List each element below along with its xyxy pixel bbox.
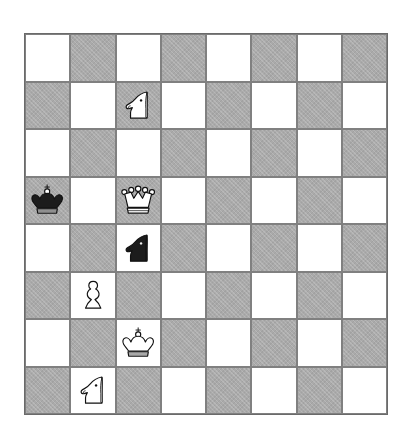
square-a5[interactable] — [25, 177, 70, 225]
white-pawn[interactable] — [75, 276, 111, 314]
square-e1[interactable] — [206, 367, 251, 415]
square-f1[interactable] — [251, 367, 296, 415]
square-c5[interactable] — [116, 177, 161, 225]
square-e5[interactable] — [206, 177, 251, 225]
square-a8[interactable] — [25, 34, 70, 82]
square-g2[interactable] — [297, 319, 342, 367]
white-king[interactable] — [120, 324, 156, 362]
square-c7[interactable] — [116, 82, 161, 130]
square-d5[interactable] — [161, 177, 206, 225]
square-e3[interactable] — [206, 272, 251, 320]
square-d7[interactable] — [161, 82, 206, 130]
square-b3[interactable] — [70, 272, 115, 320]
square-b4[interactable] — [70, 224, 115, 272]
square-c8[interactable] — [116, 34, 161, 82]
square-h7[interactable] — [342, 82, 387, 130]
square-a1[interactable] — [25, 367, 70, 415]
square-g7[interactable] — [297, 82, 342, 130]
square-h6[interactable] — [342, 129, 387, 177]
square-e7[interactable] — [206, 82, 251, 130]
square-h3[interactable] — [342, 272, 387, 320]
square-h4[interactable] — [342, 224, 387, 272]
square-d3[interactable] — [161, 272, 206, 320]
square-g8[interactable] — [297, 34, 342, 82]
square-g1[interactable] — [297, 367, 342, 415]
square-c6[interactable] — [116, 129, 161, 177]
square-c2[interactable] — [116, 319, 161, 367]
square-b6[interactable] — [70, 129, 115, 177]
square-b5[interactable] — [70, 177, 115, 225]
square-e4[interactable] — [206, 224, 251, 272]
chess-diagram — [0, 0, 414, 440]
square-f8[interactable] — [251, 34, 296, 82]
white-knight[interactable] — [75, 371, 111, 409]
square-c1[interactable] — [116, 367, 161, 415]
square-a4[interactable] — [25, 224, 70, 272]
white-knight[interactable] — [120, 86, 156, 124]
black-king[interactable] — [29, 181, 65, 219]
square-a3[interactable] — [25, 272, 70, 320]
square-c3[interactable] — [116, 272, 161, 320]
square-f7[interactable] — [251, 82, 296, 130]
square-h8[interactable] — [342, 34, 387, 82]
square-g6[interactable] — [297, 129, 342, 177]
square-h1[interactable] — [342, 367, 387, 415]
square-c4[interactable] — [116, 224, 161, 272]
square-d4[interactable] — [161, 224, 206, 272]
square-d6[interactable] — [161, 129, 206, 177]
chessboard[interactable] — [24, 33, 388, 415]
square-f4[interactable] — [251, 224, 296, 272]
square-g4[interactable] — [297, 224, 342, 272]
square-h5[interactable] — [342, 177, 387, 225]
white-queen[interactable] — [120, 181, 156, 219]
square-b8[interactable] — [70, 34, 115, 82]
square-a2[interactable] — [25, 319, 70, 367]
square-e2[interactable] — [206, 319, 251, 367]
square-b7[interactable] — [70, 82, 115, 130]
square-e6[interactable] — [206, 129, 251, 177]
square-h2[interactable] — [342, 319, 387, 367]
square-b2[interactable] — [70, 319, 115, 367]
black-knight[interactable] — [120, 229, 156, 267]
square-g3[interactable] — [297, 272, 342, 320]
square-f5[interactable] — [251, 177, 296, 225]
square-f2[interactable] — [251, 319, 296, 367]
square-f3[interactable] — [251, 272, 296, 320]
square-e8[interactable] — [206, 34, 251, 82]
square-a6[interactable] — [25, 129, 70, 177]
square-f6[interactable] — [251, 129, 296, 177]
square-a7[interactable] — [25, 82, 70, 130]
square-g5[interactable] — [297, 177, 342, 225]
square-b1[interactable] — [70, 367, 115, 415]
square-d1[interactable] — [161, 367, 206, 415]
square-d2[interactable] — [161, 319, 206, 367]
square-d8[interactable] — [161, 34, 206, 82]
